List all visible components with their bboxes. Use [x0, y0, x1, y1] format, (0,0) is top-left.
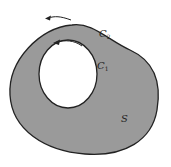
outer-arrow-icon — [45, 16, 71, 21]
region-s — [10, 25, 158, 155]
label-s: S — [121, 113, 128, 124]
label-c2: C2 — [99, 28, 111, 40]
diagram: C2 C1 S — [0, 0, 171, 167]
inner-curve-c1 — [39, 40, 97, 108]
